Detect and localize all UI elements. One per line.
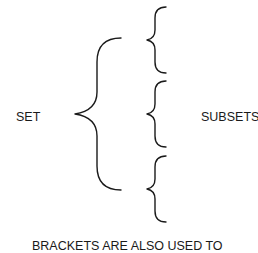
small-brace-icon xyxy=(147,156,166,222)
small-brace-icon xyxy=(147,7,166,73)
brace-diagram: SET SUBSETS BRACKETS ARE ALSO USED TO xyxy=(0,0,258,253)
small-brace-icon xyxy=(147,81,166,147)
braces-canvas xyxy=(0,0,258,253)
caption-text: BRACKETS ARE ALSO USED TO xyxy=(32,240,223,253)
set-label: SET xyxy=(16,111,40,124)
subsets-label: SUBSETS xyxy=(201,111,258,124)
large-brace-icon xyxy=(75,38,121,190)
